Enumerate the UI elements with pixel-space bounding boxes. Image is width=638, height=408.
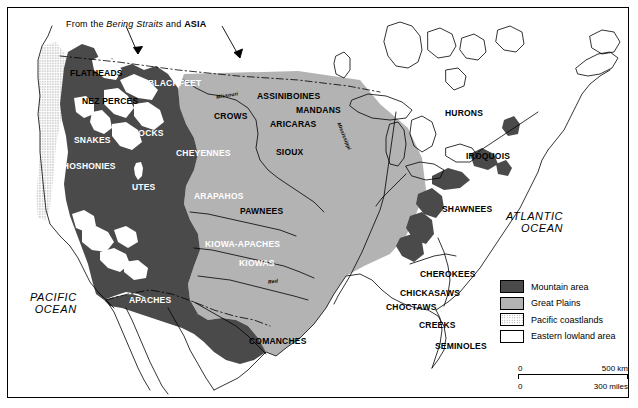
legend-swatch-eastern-lowland-area [500,330,524,343]
tribe-label-utes: UTES [132,182,155,192]
tribe-label-seminoles: SEMINOLES [435,341,487,351]
tribe-label-blackfeet: BLACKFEET [148,78,201,88]
lake-winnipeg [334,52,350,78]
scale-km-zero: 0 [518,364,522,373]
atlantic-ocean-line1: ATLANTIC [506,210,563,222]
tribe-label-snakes: SNAKES [74,135,111,145]
tribe-label-apaches: APACHES [129,295,171,305]
tribe-label-aricaras: ARICARAS [270,119,316,129]
legend-swatch-great-plains [500,297,524,310]
annotation-prefix: From the [66,19,106,29]
tribe-label-cherokees: CHEROKEES [420,269,476,279]
atlantic-ocean-label: ATLANTIC OCEAN [506,210,563,234]
scale-miles-max: 300 miles [594,382,628,391]
annotation-italic: Bering Straits [106,19,163,29]
scale-km-max: 500 km [602,364,628,373]
legend-label-eastern-lowland-area: Eastern lowland area [531,331,616,341]
atlantic-ocean-line2: OCEAN [506,222,563,234]
legend-label-mountain-area: Mountain area [531,282,589,292]
legend-item-eastern-lowland-area: Eastern lowland area [500,330,626,343]
tribe-label-sioux: SIOUX [276,147,303,157]
northeast-coastline [548,70,610,150]
tribe-label-chickasaws: CHICKASAWS [400,288,460,298]
legend-label-pacific-coastlands: Pacific coastlands [531,315,603,325]
annotation-bold: ASIA [184,19,206,29]
tribe-label-shoshonies: SHOSHONIES [57,161,116,171]
florida-peninsula [432,310,442,368]
legend-swatch-mountain-area [500,280,524,293]
tribe-label-arapahos: ARAPAHOS [194,191,244,201]
canadian-lake-d [446,68,466,90]
tribe-label-pawnees: PAWNEES [240,206,283,216]
tribe-label-kiowas: KIOWAS [239,258,275,268]
legend-label-great-plains: Great Plains [531,298,581,308]
tribe-label-shawnees: SHAWNEES [442,204,492,214]
map-legend: Mountain area Great Plains Pacific coast… [500,280,626,346]
pacific-ocean-line2: OCEAN [30,303,77,315]
tribe-label-hurons: HURONS [445,108,483,118]
map-scale-bar: 0 500 km 0 300 miles [518,364,628,392]
tribe-label-iroquois: IROQUOIS [466,151,510,161]
newfoundland [590,30,620,54]
tribe-label-assiniboines: ASSINIBOINES [257,91,320,101]
scale-km-numbers: 0 500 km [518,364,628,374]
tribe-label-bannocks: BANNOCKS [113,128,164,138]
map-figure: From the Bering Straits and ASIA ATLANTI… [0,0,638,408]
nova-scotia [576,52,618,76]
legend-item-great-plains: Great Plains [500,297,626,310]
tribe-label-choctaws: CHOCTAWS [386,302,437,312]
canadian-lake-a [428,28,456,58]
pacific-ocean-line1: PACIFIC [30,291,77,303]
legend-swatch-pacific-coastlands [500,313,524,326]
scale-rule [518,374,628,382]
legend-item-pacific-coastlands: Pacific coastlands [500,313,626,326]
migration-arrows [126,26,243,58]
canadian-lake-b [460,34,486,60]
tribe-label-comanches: COMANCHES [249,336,307,346]
scale-miles-numbers: 0 300 miles [518,382,628,392]
tribe-label-kiowa-apaches: KIOWA-APACHES [205,239,280,249]
tribe-label-creeks: CREEKS [419,320,456,330]
hudson-bay [384,22,422,68]
tribe-label-mandans: MANDANS [296,105,341,115]
tribe-label-cheyennes: CHEYENNES [176,148,231,158]
tribe-label-crows: CROWS [214,111,248,121]
migration-annotation: From the Bering Straits and ASIA [66,19,206,29]
map-frame: From the Bering Straits and ASIA ATLANTI… [7,7,629,398]
st-lawrence-river [478,112,538,152]
annotation-middle: and [163,19,184,29]
tribe-label-flatheads: FLATHEADS [70,68,123,78]
scale-miles-zero: 0 [518,382,522,391]
tribe-label-nez-perces: NEZ PERCES [82,96,138,106]
legend-item-mountain-area: Mountain area [500,280,626,293]
pacific-ocean-label: PACIFIC OCEAN [30,291,77,315]
canadian-lake-c [496,26,524,52]
